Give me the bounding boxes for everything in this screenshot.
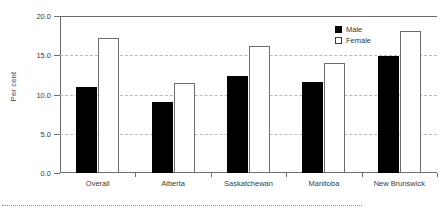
bar-male-overall xyxy=(76,87,97,173)
y-axis-tick: 15.0 xyxy=(54,55,60,56)
bar-male-new-brunswick xyxy=(378,56,399,173)
bar-female-saskatchewan xyxy=(249,46,270,173)
x-axis-tick xyxy=(211,173,212,177)
footer-divider xyxy=(2,205,362,206)
bar-female-overall xyxy=(98,38,119,173)
bar-male-manitoba xyxy=(302,82,323,173)
bar-chart-figure: Per cent 0.05.010.015.020.0 OverallAlber… xyxy=(0,0,440,214)
y-axis-tick: 5.0 xyxy=(54,134,60,135)
legend-swatch-male-icon xyxy=(335,26,342,33)
legend-label-female: Female xyxy=(346,36,371,45)
y-axis-tick-label: 20.0 xyxy=(36,12,51,21)
bar-female-manitoba xyxy=(324,63,345,173)
legend-item-male: Male xyxy=(335,24,371,35)
x-axis-label-new-brunswick: New Brunswick xyxy=(374,179,425,188)
plot-top-border xyxy=(60,16,437,17)
bar-female-new-brunswick xyxy=(400,31,421,173)
x-axis-tick xyxy=(286,173,287,177)
y-axis-tick-label: 15.0 xyxy=(36,51,51,60)
legend-swatch-female-icon xyxy=(335,37,342,44)
y-axis-tick-label: 10.0 xyxy=(36,91,51,100)
bar-male-saskatchewan xyxy=(227,76,248,173)
chart-legend: Male Female xyxy=(335,24,371,46)
y-axis-tick-label: 5.0 xyxy=(41,130,51,139)
x-axis-label-overall: Overall xyxy=(86,179,110,188)
y-axis-tick: 0.0 xyxy=(54,173,60,174)
x-axis-label-saskatchewan: Saskatchewan xyxy=(224,179,273,188)
legend-label-male: Male xyxy=(346,25,362,34)
y-axis-tick: 10.0 xyxy=(54,95,60,96)
bar-male-alberta xyxy=(152,102,173,173)
y-axis-tick-label: 0.0 xyxy=(41,169,51,178)
x-axis-tick xyxy=(437,173,438,177)
legend-item-female: Female xyxy=(335,35,371,46)
plot-area: 0.05.010.015.020.0 OverallAlbertaSaskatc… xyxy=(60,16,437,173)
bar-female-alberta xyxy=(174,83,195,173)
x-axis-label-manitoba: Manitoba xyxy=(308,179,339,188)
x-axis-label-alberta: Alberta xyxy=(161,179,185,188)
x-axis-tick xyxy=(362,173,363,177)
x-axis-tick xyxy=(135,173,136,177)
y-axis-title: Per cent xyxy=(9,57,18,117)
y-axis-tick: 20.0 xyxy=(54,16,60,17)
